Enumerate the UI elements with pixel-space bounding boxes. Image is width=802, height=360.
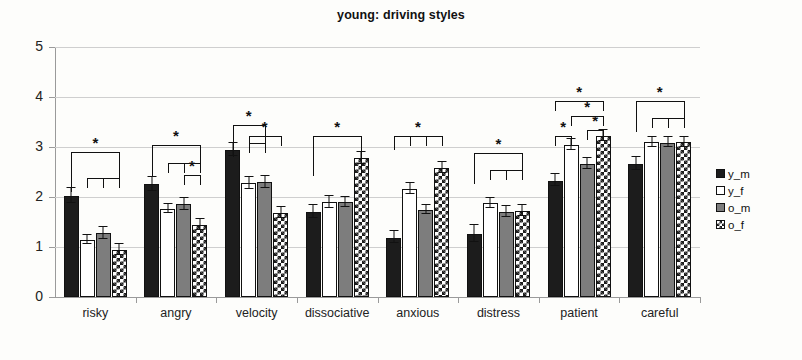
x-label-anxious: anxious <box>378 306 459 320</box>
legend-item-o_m[interactable]: o_m <box>716 200 796 215</box>
sig-star: * <box>657 87 663 96</box>
legend: y_my_fo_mo_f <box>716 166 796 234</box>
legend-swatch-icon <box>716 203 725 212</box>
chart-container: young: driving styles 012345 ***********… <box>0 0 802 360</box>
legend-swatch-icon <box>716 220 725 229</box>
legend-swatch-icon <box>716 169 725 178</box>
legend-item-y_m[interactable]: y_m <box>716 166 796 181</box>
bracket-leg <box>684 118 685 128</box>
bracket-top <box>636 101 684 102</box>
legend-item-y_f[interactable]: y_f <box>716 183 796 198</box>
legend-label: o_m <box>728 202 750 214</box>
legend-item-o_f[interactable]: o_f <box>716 217 796 232</box>
legend-swatch-icon <box>716 186 725 195</box>
x-label-velocity: velocity <box>216 306 297 320</box>
x-label-careful: careful <box>619 306 700 320</box>
x-label-angry: angry <box>136 306 217 320</box>
legend-label: y_f <box>728 185 743 197</box>
bracket-leg <box>652 118 653 128</box>
x-label-distress: distress <box>458 306 539 320</box>
x-label-risky: risky <box>55 306 136 320</box>
bracket-leg <box>636 101 637 132</box>
legend-label: y_m <box>728 168 750 180</box>
bracket-leg <box>668 118 669 128</box>
x-label-patient: patient <box>539 306 620 320</box>
x-label-dissociative: dissociative <box>297 306 378 320</box>
bracket-leg <box>684 101 685 118</box>
legend-label: o_f <box>728 219 744 231</box>
